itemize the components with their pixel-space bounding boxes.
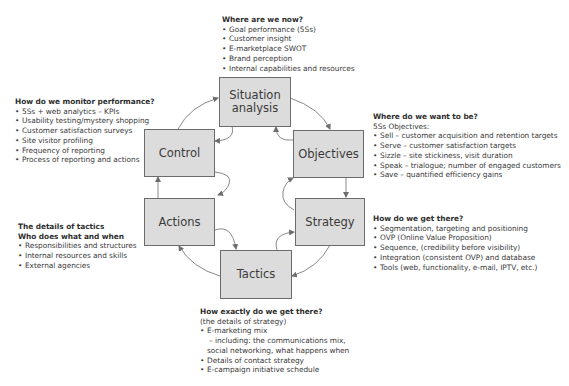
list-item: Sizzle – site stickiness, visit duration [373, 151, 561, 161]
list-item: Customer satisfaction surveys [15, 126, 154, 136]
notes-heading: Where do we want to be? [373, 112, 561, 122]
notes-subheading: (the details of strategy) [200, 317, 349, 327]
list-item: Details of contact strategy [200, 356, 349, 366]
list-item: Process of reporting and actions [15, 155, 154, 165]
arrow-strategy-to-objectives-feedback [283, 178, 294, 210]
list-item: External agencies [18, 261, 137, 271]
objectives-notes: Where do we want to be? 5Ss Objectives: … [373, 112, 561, 180]
list-item-continuation: – including: the communications mix, [200, 336, 349, 346]
arrow-objectives-to-situation-feedback [276, 127, 293, 140]
list-item-continuation: social networking, what happens when [200, 346, 349, 356]
list-item: E-marketplace SWOT [222, 44, 355, 54]
notes-heading: Where are we now? [222, 15, 355, 25]
arrow-tactics-to-strategy-feedback [276, 232, 294, 250]
list-item: Sell – customer acquisition and retentio… [373, 131, 561, 141]
arrow-control-to-situation [178, 98, 218, 129]
list-item: Internal capabilities and resources [222, 64, 355, 74]
list-item: OVP (Online Value Proposition) [373, 233, 537, 243]
list-item: Tools (web, functionality, e-mail, IPTV,… [373, 263, 537, 273]
stage-label: Control [159, 147, 201, 160]
list-item: Internal resources and skills [18, 251, 137, 261]
stage-situation-analysis: Situation analysis [219, 77, 291, 127]
stage-actions: Actions [144, 198, 215, 246]
list-item: Usability testing/mystery shopping [15, 116, 154, 126]
list-item: Segmentation, targeting and positioning [373, 224, 537, 234]
list-item: Integration (consistent OVP) and databas… [373, 253, 537, 263]
list-item: Goal performance (5Ss) [222, 25, 355, 35]
stage-tactics: Tactics [220, 250, 292, 299]
list-item: 5Ss + web analytics – KPIs [15, 107, 154, 117]
notes-heading-secondary: Who does what and when [18, 232, 137, 242]
arrow-situation-to-control-feedback [215, 126, 233, 141]
arrow-strategy-to-tactics [292, 245, 330, 276]
notes-heading: How do we get there? [373, 214, 537, 224]
notes-heading: The details of tactics [18, 222, 137, 232]
stage-strategy: Strategy [295, 198, 365, 246]
arrow-control-to-actions-feedback [215, 172, 230, 195]
strategy-notes: How do we get there? Segmentation, targe… [373, 214, 537, 272]
notes-heading: How exactly do we get there? [200, 307, 349, 317]
tactics-notes: How exactly do we get there? (the detail… [200, 307, 349, 375]
stage-objectives: Objectives [293, 130, 364, 178]
list-item: Sequence, (credibility before visibility… [373, 243, 537, 253]
list-item: E-campaign initiative schedule [200, 365, 349, 375]
notes-subheading: 5Ss Objectives: [373, 122, 561, 132]
actions-notes: The details of tactics Who does what and… [18, 222, 137, 271]
list-item: Save – quantified efficiency gains [373, 170, 561, 180]
list-item: Site visitor profiling [15, 136, 154, 146]
arrow-actions-to-tactics-feedback [215, 229, 236, 249]
list-item: Frequency of reporting [15, 146, 154, 156]
notes-heading: How do we monitor performance? [15, 97, 154, 107]
control-notes: How do we monitor performance? 5Ss + web… [15, 97, 154, 165]
stage-label: Situation analysis [229, 89, 281, 115]
stage-label: Tactics [237, 268, 276, 281]
situation-notes: Where are we now? Goal performance (5Ss)… [222, 15, 355, 73]
list-item: Serve – customer satisfaction targets [373, 141, 561, 151]
list-item: Customer insight [222, 34, 355, 44]
stage-label: Strategy [305, 216, 354, 229]
arrow-tactics-to-actions [179, 246, 220, 276]
list-item: Responsibilities and structures [18, 241, 137, 251]
stage-label: Actions [158, 216, 200, 229]
arrow-situation-to-objectives [290, 98, 330, 129]
list-item: E-marketing mix [200, 326, 349, 336]
stage-control: Control [144, 129, 215, 177]
list-item: Brand perception [222, 54, 355, 64]
stage-label: Objectives [298, 148, 359, 161]
list-item: Speak – trialogue; number of engaged cus… [373, 161, 561, 171]
